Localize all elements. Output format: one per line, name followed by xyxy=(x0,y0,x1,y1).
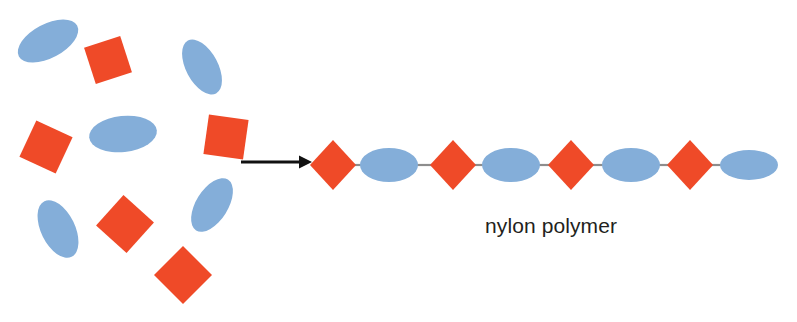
chain-ellipse-1 xyxy=(360,148,418,182)
monomer-square-3 xyxy=(203,114,248,159)
nylon-polymer-diagram: nylon polymer xyxy=(0,0,797,322)
chain-ellipse-4 xyxy=(720,150,778,180)
chain-ellipse-3 xyxy=(602,148,660,182)
chain-ellipse-2 xyxy=(482,148,540,182)
nylon-polymer-label: nylon polymer xyxy=(485,214,617,237)
diagram-canvas: nylon polymer xyxy=(0,0,797,322)
